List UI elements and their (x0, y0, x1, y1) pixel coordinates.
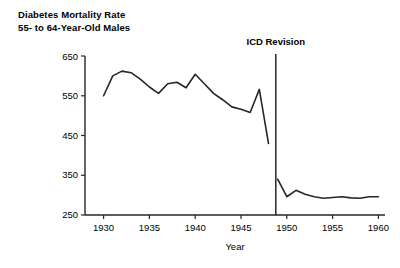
x-axis-label: Year (225, 241, 244, 252)
chart-subtitle: 55- to 64-Year-Old Males (18, 22, 130, 33)
xtick-label-1945: 1945 (230, 222, 251, 233)
icd-revision-label: ICD Revision (247, 36, 306, 47)
xtick-label-1955: 1955 (322, 222, 343, 233)
chart-title: Diabetes Mortality Rate (18, 9, 125, 20)
series-line-pre-icd (104, 71, 269, 143)
ytick-label-550: 550 (62, 90, 78, 101)
diabetes-mortality-chart: Diabetes Mortality Rate 55- to 64-Year-O… (0, 0, 400, 268)
ytick-label-450: 450 (62, 130, 78, 141)
series-line-post-icd (278, 179, 379, 198)
xtick-label-1940: 1940 (185, 222, 206, 233)
xtick-label-1930: 1930 (93, 222, 114, 233)
ytick-label-250: 250 (62, 209, 78, 220)
chart-svg: Diabetes Mortality Rate 55- to 64-Year-O… (0, 0, 400, 268)
xtick-label-1960: 1960 (368, 222, 389, 233)
xtick-label-1950: 1950 (276, 222, 297, 233)
ytick-label-650: 650 (62, 51, 78, 62)
ytick-label-350: 350 (62, 169, 78, 180)
xtick-label-1935: 1935 (139, 222, 160, 233)
